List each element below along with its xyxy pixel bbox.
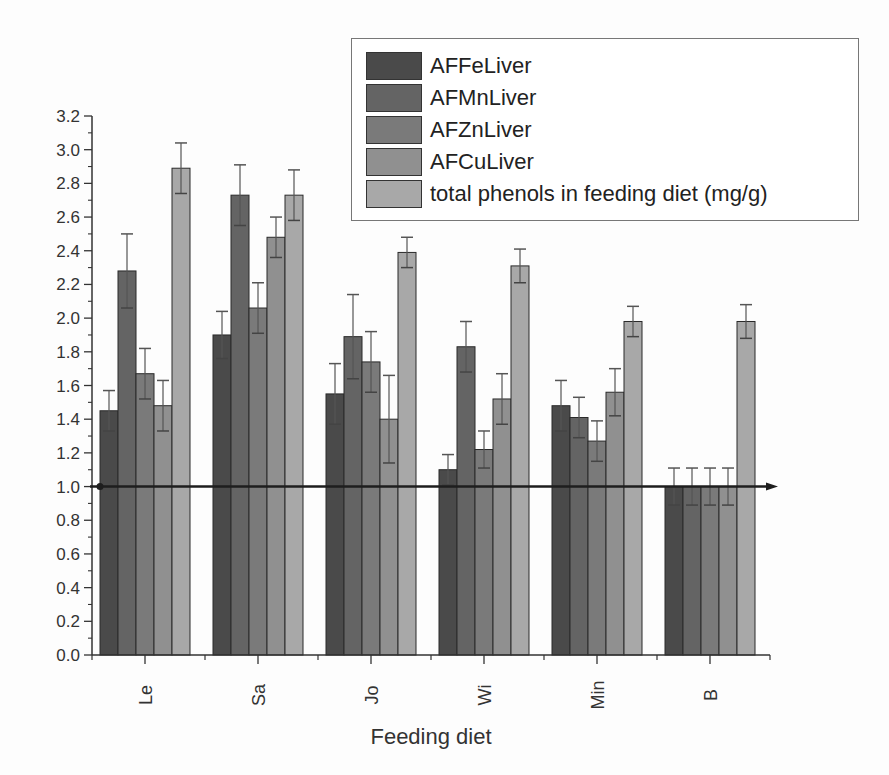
legend-label: total phenols in feeding diet (mg/g)	[430, 181, 768, 207]
bar	[588, 441, 606, 655]
y-tick-label: 2.2	[56, 275, 80, 294]
x-tick-label: Jo	[362, 685, 382, 704]
y-tick-label: 1.8	[56, 343, 80, 362]
y-tick-label: 3.2	[56, 107, 80, 126]
legend-swatch	[366, 52, 422, 80]
bar	[475, 450, 493, 655]
legend-label: AFCuLiver	[430, 149, 534, 175]
bar	[737, 321, 755, 655]
legend-swatch	[366, 116, 422, 144]
legend-label: AFFeLiver	[430, 53, 531, 79]
bar	[326, 394, 344, 655]
bar	[154, 406, 172, 655]
bar	[231, 195, 249, 655]
y-tick-label: 1.6	[56, 377, 80, 396]
y-tick-label: 0.0	[56, 646, 80, 665]
bar	[624, 321, 642, 655]
legend-swatch	[366, 84, 422, 112]
bar	[665, 487, 683, 655]
bar	[511, 266, 529, 655]
x-axis-label: Feeding diet	[370, 724, 491, 749]
bar	[118, 271, 136, 655]
bar	[719, 487, 737, 655]
bar	[439, 470, 457, 655]
y-tick-label: 2.6	[56, 208, 80, 227]
x-tick-label: Wi	[475, 685, 495, 706]
x-tick-label: Min	[588, 680, 608, 709]
y-tick-label: 0.4	[56, 579, 80, 598]
x-tick-label: B	[701, 689, 721, 701]
legend-item-mnliver: AFMnLiver	[366, 84, 536, 112]
legend-swatch	[366, 180, 422, 208]
bar	[701, 487, 719, 655]
y-tick-label: 0.8	[56, 511, 80, 530]
bar	[606, 392, 624, 655]
y-tick-label: 1.4	[56, 410, 80, 429]
y-tick-label: 0.2	[56, 612, 80, 631]
bar	[100, 411, 118, 655]
legend-item-culiver: AFCuLiver	[366, 148, 534, 176]
legend-label: AFMnLiver	[430, 85, 536, 111]
legend-item-znliver: AFZnLiver	[366, 116, 531, 144]
bar	[683, 487, 701, 655]
bar	[249, 308, 267, 655]
x-tick-label: Le	[136, 685, 156, 705]
bar	[552, 406, 570, 655]
legend: AFFeLiver AFMnLiver AFZnLiver AFCuLiver …	[351, 38, 859, 221]
y-tick-label: 2.8	[56, 174, 80, 193]
legend-swatch	[366, 148, 422, 176]
x-tick-label: Sa	[249, 683, 269, 706]
bar	[398, 252, 416, 655]
bar	[457, 347, 475, 655]
bar	[344, 337, 362, 655]
y-tick-label: 2.4	[56, 242, 80, 261]
bars-layer	[100, 168, 755, 655]
legend-item-phenols: total phenols in feeding diet (mg/g)	[366, 180, 768, 208]
bar	[213, 335, 231, 655]
y-tick-label: 3.0	[56, 141, 80, 160]
y-tick-label: 2.0	[56, 309, 80, 328]
bar	[570, 418, 588, 655]
legend-item-feliver: AFFeLiver	[366, 52, 531, 80]
y-tick-label: 0.6	[56, 545, 80, 564]
y-tick-label: 1.0	[56, 478, 80, 497]
bar	[285, 195, 303, 655]
bar	[493, 399, 511, 655]
legend-label: AFZnLiver	[430, 117, 531, 143]
bar	[136, 374, 154, 655]
y-tick-label: 1.2	[56, 444, 80, 463]
bar	[267, 237, 285, 655]
bar	[362, 362, 380, 655]
bar	[172, 168, 190, 655]
